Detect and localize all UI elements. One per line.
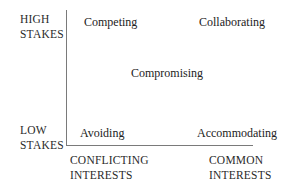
style-avoiding: Avoiding	[80, 126, 124, 141]
style-competing: Competing	[84, 15, 137, 30]
common-label-line1: COMMON	[209, 153, 272, 168]
x-axis-line	[66, 145, 253, 146]
low-label-line1: LOW	[20, 123, 64, 138]
y-axis-line	[66, 10, 67, 145]
style-compromising: Compromising	[131, 66, 203, 81]
style-accommodating: Accommodating	[197, 126, 277, 141]
conflicting-label-line1: CONFLICTING	[70, 153, 149, 168]
conflicting-interests-label: CONFLICTING INTERESTS	[70, 153, 149, 183]
high-label-line2: STAKES	[20, 27, 64, 42]
low-label-line2: STAKES	[20, 138, 64, 153]
high-label-line1: HIGH	[20, 12, 64, 27]
common-interests-label: COMMON INTERESTS	[209, 153, 272, 183]
low-stakes-label: LOW STAKES	[20, 123, 64, 153]
conflicting-label-line2: INTERESTS	[70, 168, 149, 183]
common-label-line2: INTERESTS	[209, 168, 272, 183]
high-stakes-label: HIGH STAKES	[20, 12, 64, 42]
style-collaborating: Collaborating	[199, 15, 265, 30]
